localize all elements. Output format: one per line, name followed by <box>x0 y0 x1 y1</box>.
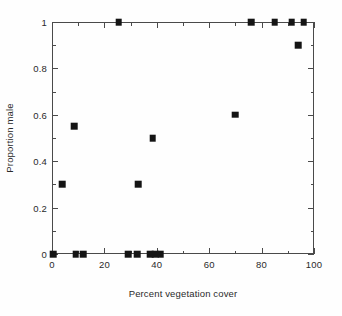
scatter-plot-figure: 02040608010000.20.40.60.81 Percent veget… <box>0 0 342 316</box>
x-axis-tick-minor-top <box>131 22 132 26</box>
y-axis-tick-major <box>52 115 58 116</box>
x-axis-tick-major-top <box>104 22 105 28</box>
x-axis-tick-label: 0 <box>49 259 54 270</box>
y-axis-tick-minor-right <box>311 45 315 46</box>
y-axis-tick-minor <box>52 138 56 139</box>
x-axis-tick-minor-top <box>78 22 79 26</box>
x-axis-tick-label: 80 <box>256 259 267 270</box>
y-axis-tick-major-right <box>308 208 314 209</box>
y-axis-tick-label: 1 <box>42 17 47 28</box>
x-axis-tick-minor <box>235 251 236 255</box>
data-point-marker <box>135 181 142 188</box>
x-axis-tick-minor <box>183 251 184 255</box>
x-axis-label: Percent vegetation cover <box>52 288 314 299</box>
x-axis-tick-label: 100 <box>306 259 322 270</box>
data-point-marker <box>116 19 123 26</box>
data-point-marker <box>71 123 78 130</box>
data-point-marker <box>232 112 239 119</box>
x-axis-tick-major-top <box>262 22 263 28</box>
y-axis-tick-major <box>52 161 58 162</box>
data-point-marker <box>288 19 295 26</box>
data-point-marker <box>271 19 278 26</box>
y-axis-tick-major <box>52 68 58 69</box>
data-point-marker <box>300 19 307 26</box>
y-axis-tick-minor-right <box>311 184 315 185</box>
y-axis-tick-minor <box>52 184 56 185</box>
data-point-marker <box>80 251 87 258</box>
y-axis-tick-label: 0.6 <box>33 109 47 120</box>
x-axis-tick-label: 60 <box>204 259 215 270</box>
x-axis-tick-major-top <box>157 22 158 28</box>
x-axis-tick-minor-top <box>183 22 184 26</box>
x-axis-tick-major <box>104 248 105 254</box>
y-axis-tick-minor-right <box>311 138 315 139</box>
y-axis-tick-major-right <box>308 68 314 69</box>
data-point-marker <box>157 251 164 258</box>
y-axis-tick-minor-right <box>311 231 315 232</box>
data-point-marker <box>125 251 132 258</box>
data-point-marker <box>72 251 79 258</box>
x-axis-tick-major-top <box>314 22 315 28</box>
y-axis-tick-label: 0 <box>42 249 47 260</box>
y-axis-tick-minor <box>52 92 56 93</box>
x-axis-tick-label: 40 <box>151 259 162 270</box>
y-axis-label: Proportion male <box>4 103 15 172</box>
x-axis-tick-major <box>314 248 315 254</box>
y-axis-tick-minor <box>52 45 56 46</box>
data-point-marker <box>150 135 157 142</box>
y-axis-tick-major <box>52 22 58 23</box>
data-point-marker <box>50 251 57 258</box>
x-axis-tick-major <box>262 248 263 254</box>
y-axis-tick-major <box>52 208 58 209</box>
y-axis-tick-major-right <box>308 22 314 23</box>
y-axis-tick-major-right <box>308 254 314 255</box>
y-axis-tick-minor-right <box>311 92 315 93</box>
x-axis-tick-minor-top <box>235 22 236 26</box>
y-axis-tick-major-right <box>308 161 314 162</box>
data-point-marker <box>59 181 66 188</box>
data-point-marker <box>295 42 302 49</box>
data-point-marker <box>248 19 255 26</box>
y-axis-tick-minor <box>52 231 56 232</box>
x-axis-tick-major <box>209 248 210 254</box>
y-axis-tick-major-right <box>308 115 314 116</box>
x-axis-tick-minor <box>288 251 289 255</box>
y-axis-tick-label: 0.4 <box>33 156 47 167</box>
plot-area <box>52 22 314 254</box>
x-axis-tick-major-top <box>209 22 210 28</box>
y-axis-tick-label: 0.2 <box>33 202 47 213</box>
x-axis-tick-label: 20 <box>99 259 110 270</box>
data-point-marker <box>134 251 141 258</box>
y-axis-tick-label: 0.8 <box>33 63 47 74</box>
